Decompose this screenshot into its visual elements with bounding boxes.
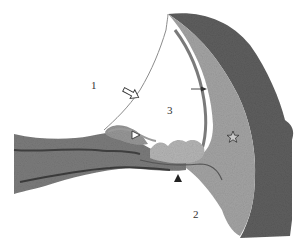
filled-arrowhead-icon xyxy=(174,174,182,182)
organ-of-corti xyxy=(150,140,204,163)
label-1: 1 xyxy=(91,80,97,91)
label-3: 3 xyxy=(167,105,173,116)
micrograph-figure: 1 2 3 xyxy=(0,0,304,249)
tissue-drawing xyxy=(0,0,304,249)
reissners-membrane xyxy=(104,14,168,130)
spiral-lamina xyxy=(14,132,186,194)
solid-arrow-icon xyxy=(191,87,207,92)
label-2: 2 xyxy=(193,209,199,220)
